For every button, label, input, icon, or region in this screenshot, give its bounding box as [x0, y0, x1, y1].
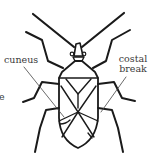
label-costal-break: costal break [118, 54, 148, 74]
label-edge-fragment: e [0, 92, 5, 102]
label-cuneus: cuneus [4, 55, 38, 65]
eye-right [82, 52, 86, 56]
leg-hind-left [35, 108, 59, 152]
eye-left [70, 52, 74, 56]
leader-line-cuneus [24, 67, 64, 117]
leg-middle-right [98, 82, 135, 101]
insect-diagram [0, 0, 155, 160]
antenna-right [82, 13, 124, 47]
label-costal-line2: break [118, 64, 148, 74]
leg-middle-left [23, 82, 59, 102]
antenna-left [33, 14, 74, 47]
leg-hind-right [98, 108, 123, 152]
